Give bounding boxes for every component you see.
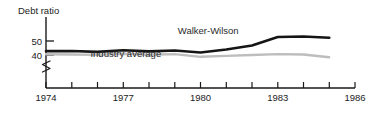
- x-tick-label-1983: 1983: [267, 92, 288, 103]
- y-axis-break-icon: [43, 61, 51, 72]
- series-label-walker-wilson: Walker-Wilson: [178, 25, 239, 36]
- y-tick-label-50: 50: [31, 36, 42, 47]
- y-axis-label: Debt ratio: [18, 5, 59, 16]
- x-tick-label-1977: 1977: [113, 92, 134, 103]
- series-line-walker-wilson: [46, 37, 329, 53]
- x-tick-label-1974: 1974: [35, 92, 56, 103]
- series-line-industry-average: [46, 54, 329, 58]
- y-axis-ticks: 50 40: [31, 36, 54, 61]
- x-tick-label-1980: 1980: [190, 92, 211, 103]
- chart-screenshot: Debt ratio 50 40: [0, 0, 376, 114]
- y-tick-label-40: 40: [31, 50, 42, 61]
- x-axis-tick-labels: 1974 1977 1980 1983 1986: [35, 92, 365, 103]
- x-axis-ticks: [46, 82, 355, 88]
- series-label-industry-average: Industry average: [90, 48, 161, 59]
- x-tick-label-1986: 1986: [344, 92, 365, 103]
- debt-ratio-line-chart: Debt ratio 50 40: [0, 0, 376, 114]
